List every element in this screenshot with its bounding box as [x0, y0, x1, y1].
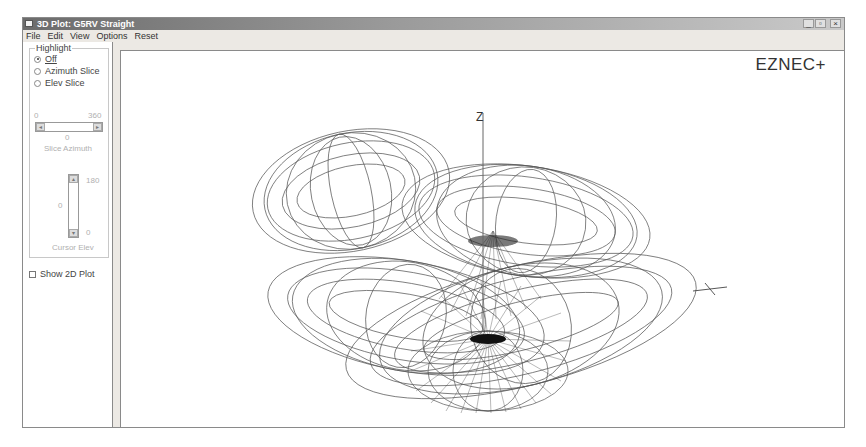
radio-unchecked-icon[interactable] — [34, 68, 41, 75]
plot-window: 3D Plot: G5RV Straight _ ▫ × File Edit V… — [22, 17, 845, 428]
control-panel: Highlight Off Azimuth Slice Elev Slice 0… — [23, 42, 113, 427]
minimize-button[interactable]: _ — [803, 19, 814, 28]
azimuth-min-label: 0 — [34, 111, 38, 120]
radio-unchecked-icon[interactable] — [34, 80, 41, 87]
menu-reset[interactable]: Reset — [131, 30, 162, 42]
window-title: 3D Plot: G5RV Straight — [37, 18, 134, 30]
menu-edit[interactable]: Edit — [45, 30, 68, 42]
center-dense-region — [470, 334, 506, 344]
elev-slider[interactable]: ▴ ▾ — [68, 174, 79, 238]
menu-options[interactable]: Options — [93, 30, 131, 42]
azimuth-slider[interactable]: ◂ ▸ — [35, 122, 103, 132]
elev-max-label: 180 — [86, 176, 99, 185]
azimuth-caption: Slice Azimuth — [44, 144, 92, 153]
menu-view[interactable]: View — [67, 30, 93, 42]
radio-elev-slice[interactable]: Elev Slice — [34, 78, 85, 88]
elev-caption: Cursor Elev — [52, 243, 94, 252]
radio-azimuth-slice[interactable]: Azimuth Slice — [34, 66, 100, 76]
maximize-button[interactable]: ▫ — [815, 19, 826, 28]
lower-left-lobe — [259, 238, 554, 395]
azimuth-max-label: 360 — [88, 111, 101, 120]
menu-bar: File Edit View Options Reset — [23, 30, 844, 42]
slider-left-arrow-icon[interactable]: ◂ — [36, 123, 45, 131]
checkbox-unchecked-icon[interactable] — [29, 271, 36, 278]
highlight-groupbox: Highlight Off Azimuth Slice Elev Slice 0… — [29, 48, 109, 258]
plot-canvas[interactable]: EZNEC+ — [120, 50, 844, 427]
elev-value: 0 — [58, 201, 62, 210]
menu-file[interactable]: File — [23, 30, 45, 42]
elev-min-label: 0 — [86, 228, 90, 237]
show-2d-plot-checkbox[interactable]: Show 2D Plot — [29, 269, 95, 279]
azimuth-value: 0 — [65, 133, 69, 142]
slider-down-arrow-icon[interactable]: ▾ — [69, 229, 78, 237]
z-axis-label: Z — [476, 110, 483, 124]
slider-right-arrow-icon[interactable]: ▸ — [93, 123, 102, 131]
radio-off-label: Off — [45, 54, 57, 64]
window-app-icon[interactable] — [25, 20, 33, 27]
highlight-group-label: Highlight — [35, 43, 72, 53]
radio-azimuth-slice-label: Azimuth Slice — [45, 66, 100, 76]
lower-right-lobe — [332, 224, 710, 428]
upper-left-lobe — [241, 112, 462, 271]
radio-off[interactable]: Off — [34, 54, 57, 64]
slider-up-arrow-icon[interactable]: ▴ — [69, 175, 78, 183]
upper-right-lobe — [395, 149, 658, 293]
radio-checked-icon[interactable] — [34, 56, 41, 63]
radio-elev-slice-label: Elev Slice — [45, 78, 85, 88]
x-axis-marker — [693, 283, 727, 295]
upper-dense-region — [468, 235, 518, 247]
title-bar[interactable]: 3D Plot: G5RV Straight _ ▫ × — [23, 18, 844, 30]
show-2d-plot-label: Show 2D Plot — [40, 269, 95, 279]
radiation-pattern-wireframe: Z — [121, 51, 845, 428]
close-button[interactable]: × — [830, 19, 841, 28]
